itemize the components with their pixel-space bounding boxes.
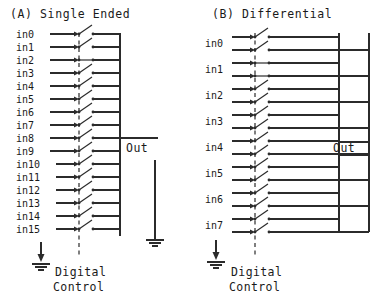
pin-label-in4: in4 xyxy=(16,81,34,92)
diff-pin-label-in2: in2 xyxy=(205,90,223,101)
panel-b-circuit xyxy=(232,28,369,235)
panel-b-switch-blade-open-7b[interactable] xyxy=(255,223,268,232)
diff-pin-label-in7: in7 xyxy=(205,220,223,231)
panel-a-switch-blade-open-4[interactable] xyxy=(79,77,92,86)
panel-single-ended: (A) Single Ended in0 in1 in2 in3 in4 in5… xyxy=(10,7,164,294)
panel-b-control-label-line1: Digital xyxy=(231,265,282,279)
panel-a-switch-blade-open-13[interactable] xyxy=(79,194,92,203)
panel-b-switch-blade-open-2b[interactable] xyxy=(255,93,268,102)
pin-label-in14: in14 xyxy=(16,211,40,222)
panel-b-input-labels: in0 in1 in2 in3 in4 in5 in6 in7 xyxy=(205,38,223,231)
diff-pin-label-in6: in6 xyxy=(205,194,223,205)
pin-label-in1: in1 xyxy=(16,42,34,53)
panel-a-switch-blade-open-10[interactable] xyxy=(79,155,92,164)
multiplexer-figure: (A) Single Ended in0 in1 in2 in3 in4 in5… xyxy=(0,0,370,300)
panel-differential: (B) Differential in0 in1 in2 in3 in4 in5… xyxy=(205,7,370,294)
panel-a-switch-blade-open-1[interactable] xyxy=(79,38,92,47)
panel-b-ground-input xyxy=(207,262,225,268)
diff-pin-label-in4: in4 xyxy=(205,142,223,153)
panel-a-switch-blade-open-3[interactable] xyxy=(79,64,92,73)
panel-a-switch-blade-open-0[interactable] xyxy=(79,25,92,34)
pin-label-in12: in12 xyxy=(16,185,40,196)
panel-a-circuit xyxy=(50,25,120,232)
panel-b-switch-blade-open-4b[interactable] xyxy=(255,145,268,154)
pin-label-in6: in6 xyxy=(16,107,34,118)
panel-a-switch-blade-open-14[interactable] xyxy=(79,207,92,216)
panel-a-ground-input xyxy=(32,264,50,270)
panel-b-switch-blade-open-6a[interactable] xyxy=(255,184,268,193)
panel-b-switch-blade-open-0b[interactable] xyxy=(255,41,268,50)
pin-label-in10: in10 xyxy=(16,159,40,170)
panel-b-switch-blade-open-3b[interactable] xyxy=(255,119,268,128)
panel-b-switch-blade-open-0a[interactable] xyxy=(255,28,268,37)
panel-a-switch-blade-open-12[interactable] xyxy=(79,181,92,190)
pin-label-in0: in0 xyxy=(16,29,34,40)
pin-label-in13: in13 xyxy=(16,198,40,209)
panel-a-switch-blade-open-7[interactable] xyxy=(79,116,92,125)
diff-pin-label-in5: in5 xyxy=(205,168,223,179)
diff-pin-label-in3: in3 xyxy=(205,116,223,127)
panel-a-switch-blade-open-9[interactable] xyxy=(79,142,92,151)
panel-b-switch-blade-open-6b[interactable] xyxy=(255,197,268,206)
diff-pin-label-in1: in1 xyxy=(205,64,223,75)
panel-a-title: (A) Single Ended xyxy=(10,7,130,21)
panel-b-switch-blade-open-4a[interactable] xyxy=(255,132,268,141)
pin-label-in15: in15 xyxy=(16,224,40,235)
panel-a-switch-blade-open-5[interactable] xyxy=(79,90,92,99)
panel-a-control-label-line2: Control xyxy=(53,280,104,294)
diff-pin-label-in0: in0 xyxy=(205,38,223,49)
panel-a-output-label: Out xyxy=(126,141,148,155)
panel-b-switch-blade-open-5b[interactable] xyxy=(255,171,268,180)
panel-b-return-arrow-icon xyxy=(213,252,220,260)
diagram-canvas: (A) Single Ended in0 in1 in2 in3 in4 in5… xyxy=(0,0,370,300)
panel-b-switch-blade-open-7a[interactable] xyxy=(255,210,268,219)
panel-b-switch-blade-open-5a[interactable] xyxy=(255,158,268,167)
panel-b-output-label: Out xyxy=(333,141,355,155)
panel-a-switch-blade-open-6[interactable] xyxy=(79,103,92,112)
panel-a-control-label-line1: Digital xyxy=(55,265,106,279)
panel-a-switch-blade-open-15[interactable] xyxy=(79,220,92,229)
panel-b-switch-blade-open-3a[interactable] xyxy=(255,106,268,115)
pin-label-in2: in2 xyxy=(16,55,34,66)
panel-b-switch-blade-open-2a[interactable] xyxy=(255,80,268,89)
pin-label-in9: in9 xyxy=(16,146,34,157)
panel-b-control-label-line2: Control xyxy=(229,280,280,294)
panel-a-switch-blade-open-11[interactable] xyxy=(79,168,92,177)
pin-label-in5: in5 xyxy=(16,94,34,105)
panel-a-return-arrow-icon xyxy=(38,254,45,262)
panel-b-title: (B) Differential xyxy=(212,7,332,21)
panel-a-ground-output xyxy=(146,240,164,246)
pin-label-in7: in7 xyxy=(16,120,34,131)
panel-a-switch-blade-open-8[interactable] xyxy=(79,129,92,138)
pin-label-in11: in11 xyxy=(16,172,40,183)
panel-a-input-labels: in0 in1 in2 in3 in4 in5 in6 in7 in8 in9 … xyxy=(16,29,40,235)
pin-label-in8: in8 xyxy=(16,133,34,144)
pin-label-in3: in3 xyxy=(16,68,34,79)
